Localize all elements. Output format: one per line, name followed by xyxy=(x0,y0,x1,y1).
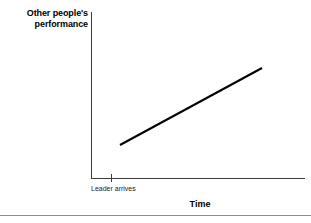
plot-area xyxy=(0,0,311,223)
y-axis-line xyxy=(91,12,92,179)
bottom-divider xyxy=(0,215,311,216)
y-axis-title: Other people's performance xyxy=(4,8,88,30)
x-axis-tick-leader-arrives xyxy=(111,174,112,182)
chart-figure: Other people's performance Leader arrive… xyxy=(0,0,311,223)
performance-trend-line xyxy=(120,68,262,145)
y-axis-title-line-2: performance xyxy=(4,19,88,30)
x-axis-title: Time xyxy=(140,199,260,209)
x-axis-tick-label-leader-arrives: Leader arrives xyxy=(91,185,136,193)
x-axis-line xyxy=(91,178,305,179)
y-axis-title-line-1: Other people's xyxy=(4,8,88,19)
